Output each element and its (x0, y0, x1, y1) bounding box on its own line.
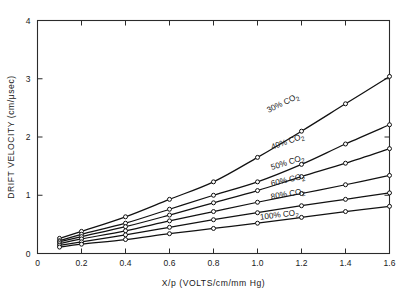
marker-0-4 (212, 180, 216, 184)
marker-1-7 (344, 142, 348, 146)
marker-3-2 (124, 229, 128, 233)
x-axis-title: X/p (VOLTS/cm/mm Hg) (162, 278, 265, 288)
marker-0-8 (388, 74, 392, 78)
data-curves (60, 76, 390, 247)
chart-figure: 00.20.40.60.81.01.21.41.6 01234 30% CO24… (0, 0, 407, 296)
curve-80-co2 (60, 193, 390, 245)
marker-5-1 (80, 242, 84, 246)
marker-5-6 (300, 215, 304, 219)
y-tick-label-4: 4 (26, 16, 31, 26)
y-axis-tick-labels: 01234 (26, 16, 31, 259)
marker-4-7 (344, 197, 348, 201)
marker-2-5 (256, 189, 260, 193)
marker-4-8 (388, 191, 392, 195)
y-tick-label-3: 3 (26, 74, 31, 84)
marker-4-4 (212, 218, 216, 222)
x-tick-label-3: 0.6 (164, 258, 176, 268)
series-inline-labels: 30% CO240% CO250% CO260% CO280% CO2100% … (259, 91, 306, 222)
x-tick-label-7: 1.4 (340, 258, 352, 268)
marker-2-2 (124, 225, 128, 229)
marker-2-8 (388, 147, 392, 151)
marker-4-3 (168, 225, 172, 229)
x-tick-label-1: 0.2 (76, 258, 88, 268)
marker-3-8 (388, 173, 392, 177)
series-label-40-co2: 40% CO2 (270, 131, 306, 153)
marker-2-4 (212, 201, 216, 205)
marker-5-0 (58, 245, 62, 249)
marker-3-7 (344, 183, 348, 187)
x-tick-label-2: 0.4 (120, 258, 132, 268)
x-tick-label-8: 1.6 (384, 258, 396, 268)
series-label-80-co2: 80% CO2 (270, 186, 306, 202)
marker-3-4 (212, 210, 216, 214)
marker-0-2 (124, 215, 128, 219)
marker-5-4 (212, 226, 216, 230)
marker-5-5 (256, 221, 260, 225)
x-tick-label-5: 1.0 (252, 258, 264, 268)
marker-0-5 (256, 155, 260, 159)
marker-1-8 (388, 123, 392, 127)
marker-5-7 (344, 210, 348, 214)
marker-3-5 (256, 200, 260, 204)
series-label-30-co2: 30% CO2 (265, 91, 301, 115)
y-tick-label-0: 0 (26, 249, 31, 259)
marker-0-7 (344, 102, 348, 106)
marker-5-2 (124, 238, 128, 242)
marker-0-6 (300, 129, 304, 133)
marker-2-3 (168, 213, 172, 217)
y-tick-label-1: 1 (26, 190, 31, 200)
curve-100-co2 (60, 206, 390, 247)
marker-0-3 (168, 197, 172, 201)
marker-2-7 (344, 161, 348, 165)
marker-4-2 (124, 233, 128, 237)
curve-30-co2 (60, 76, 390, 238)
y-axis-title: DRIFT VELOCITY (cm/μsec) (6, 75, 16, 198)
marker-1-4 (212, 193, 216, 197)
y-tick-label-2: 2 (26, 132, 31, 142)
marker-5-3 (168, 232, 172, 236)
curve-40-co2 (60, 125, 390, 241)
marker-5-8 (388, 204, 392, 208)
x-axis-tick-labels: 00.20.40.60.81.01.21.41.6 (35, 258, 396, 268)
x-tick-label-0: 0 (35, 258, 40, 268)
marker-3-3 (168, 219, 172, 223)
x-tick-label-6: 1.2 (296, 258, 308, 268)
marker-1-3 (168, 207, 172, 211)
marker-4-6 (300, 204, 304, 208)
marker-1-5 (256, 180, 260, 184)
drift-velocity-chart: 00.20.40.60.81.01.21.41.6 01234 30% CO24… (0, 0, 407, 296)
x-tick-label-4: 0.8 (208, 258, 220, 268)
curve-60-co2 (60, 175, 390, 243)
